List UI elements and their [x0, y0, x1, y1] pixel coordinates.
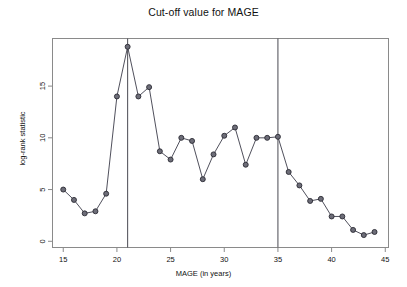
data-point: [190, 138, 195, 143]
data-point: [157, 149, 162, 154]
data-point: [125, 44, 130, 49]
x-tick-label: 20: [113, 255, 121, 264]
data-point: [61, 187, 66, 192]
data-point: [211, 152, 216, 157]
x-axis-ticks: 15202530354045: [59, 248, 389, 265]
chart-figure: Cut-off value for MAGE 15202530354045 05…: [0, 0, 407, 287]
x-tick-label: 30: [220, 255, 228, 264]
data-point: [372, 229, 377, 234]
data-point: [93, 209, 98, 214]
data-point: [340, 214, 345, 219]
y-axis-ticks: 051015: [39, 82, 53, 243]
data-point: [243, 162, 248, 167]
y-tick-label: 0: [39, 239, 48, 243]
y-tick-label: 10: [39, 134, 48, 142]
data-point: [254, 135, 259, 140]
data-point: [147, 85, 152, 90]
plot-area: 15202530354045 051015: [0, 0, 407, 287]
x-tick-label: 25: [166, 255, 174, 264]
data-point: [136, 94, 141, 99]
data-point: [297, 183, 302, 188]
data-point: [351, 227, 356, 232]
data-point: [232, 125, 237, 130]
data-point: [265, 135, 270, 140]
x-tick-label: 45: [381, 255, 389, 264]
data-point: [168, 157, 173, 162]
x-tick-label: 40: [327, 255, 335, 264]
x-axis-label: MAGE (in years): [0, 269, 407, 278]
data-series-points: [61, 44, 377, 237]
y-tick-label: 15: [39, 82, 48, 90]
data-point: [318, 196, 323, 201]
x-tick-label: 15: [59, 255, 67, 264]
x-tick-label: 35: [274, 255, 282, 264]
data-point: [82, 211, 87, 216]
data-point: [200, 177, 205, 182]
data-point: [275, 134, 280, 139]
data-point: [104, 191, 109, 196]
data-point: [114, 94, 119, 99]
data-point: [329, 214, 334, 219]
y-axis-label: log-rank statistic: [18, 69, 27, 209]
data-point: [286, 169, 291, 174]
data-point: [361, 233, 366, 238]
data-point: [179, 135, 184, 140]
data-series-line: [63, 47, 374, 235]
data-point: [222, 133, 227, 138]
data-point: [308, 198, 313, 203]
reference-lines: [128, 39, 278, 248]
y-tick-label: 5: [39, 187, 48, 191]
data-point: [71, 197, 76, 202]
